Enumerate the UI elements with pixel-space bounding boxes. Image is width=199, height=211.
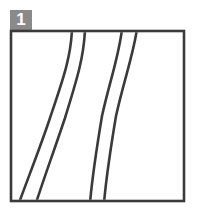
figure-panel: 1 — [0, 0, 199, 211]
panel-index-label: 1 — [16, 10, 25, 29]
panel-index-badge: 1 — [10, 10, 32, 31]
figure-canvas: 1 — [0, 0, 199, 211]
figure-frame — [11, 31, 184, 201]
